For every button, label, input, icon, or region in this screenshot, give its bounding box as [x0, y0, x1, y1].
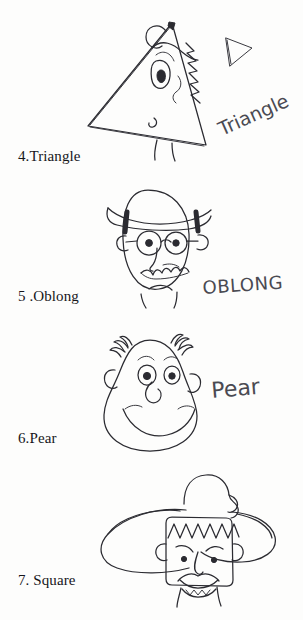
handwritten-label-oblong: OBLONG: [202, 271, 284, 298]
svg-text:Triangle: Triangle: [214, 89, 292, 140]
handwritten-label-triangle: Triangle: [214, 89, 292, 140]
scanned-page: Triangle 4.Triangle: [0, 0, 303, 620]
figure-triangle: Triangle 4.Triangle: [0, 0, 303, 172]
svg-text:Pear: Pear: [210, 374, 261, 403]
figure-oblong: OBLONG 5 .Oblong: [0, 172, 303, 312]
figure-caption-oblong: 5 .Oblong: [18, 288, 79, 305]
handwritten-label-pear: Pear: [210, 374, 261, 403]
triangle-face-drawing: Triangle: [0, 0, 303, 172]
triangle-outline-icon: [226, 38, 252, 66]
figure-pear: Pear 6.Pear: [0, 330, 303, 460]
figure-square: 7. Square: [0, 468, 303, 620]
figure-caption-pear: 6.Pear: [18, 430, 57, 447]
svg-text:OBLONG: OBLONG: [202, 271, 284, 298]
figure-caption-square: 7. Square: [18, 572, 76, 589]
figure-caption-triangle: 4.Triangle: [18, 148, 81, 165]
square-face-drawing: [0, 468, 303, 620]
